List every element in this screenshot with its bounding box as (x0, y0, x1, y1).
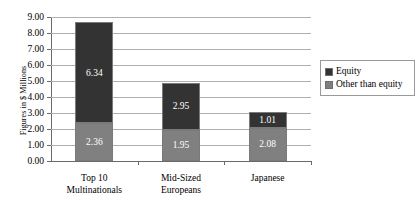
y-axis-tick-label: 2.00 (4, 124, 44, 134)
bar-segment[interactable]: 1.01 (249, 112, 287, 128)
y-axis-tick-mark (47, 129, 51, 130)
bar-value-label: 2.95 (173, 101, 190, 111)
y-axis-tick-label: 0.00 (4, 156, 44, 166)
bar-value-label: 6.34 (86, 68, 103, 78)
chart-legend: EquityOther than equity (320, 60, 415, 96)
x-axis-tick-mark (224, 161, 225, 165)
legend-color-swatch (325, 68, 333, 76)
x-axis-tick-mark (138, 161, 139, 165)
bar-segment[interactable]: 6.34 (75, 22, 113, 123)
bar-group[interactable]: 2.081.01 (249, 17, 287, 161)
y-axis-tick-label: 5.00 (4, 76, 44, 86)
y-axis-tick-label: 1.00 (4, 140, 44, 150)
x-axis-line (51, 161, 312, 162)
y-axis-tick-mark (47, 65, 51, 66)
stacked-bar-chart: Figures in $ Millions 9.008.007.006.005.… (0, 0, 418, 209)
x-axis-category-label: Top 10Multinationals (51, 172, 138, 196)
legend-color-swatch (325, 81, 333, 89)
y-axis-tick-label: 7.00 (4, 44, 44, 54)
y-axis-tick-mark (47, 33, 51, 34)
y-axis-tick-mark (47, 49, 51, 50)
legend-item-label: Other than equity (336, 79, 402, 90)
category-label-line1: Top 10 (51, 172, 138, 184)
y-axis-tick-label: 3.00 (4, 108, 44, 118)
y-axis-tick-label: 9.00 (4, 12, 44, 22)
y-axis-tick-mark (47, 97, 51, 98)
bar-segment[interactable]: 2.95 (162, 83, 200, 130)
legend-item[interactable]: Equity (325, 65, 411, 78)
x-axis-category-label: Japanese (224, 172, 311, 184)
bar-group[interactable]: 1.952.95 (162, 17, 200, 161)
y-axis-tick-label: 8.00 (4, 28, 44, 38)
category-label-line2: Multinationals (51, 184, 138, 196)
bar-segment[interactable]: 2.36 (75, 123, 113, 161)
category-label-line2: Europeans (138, 184, 225, 196)
bar-value-label: 1.95 (173, 140, 190, 150)
legend-item[interactable]: Other than equity (325, 78, 411, 91)
y-axis-tick-label: 6.00 (4, 60, 44, 70)
bar-value-label: 1.01 (259, 115, 276, 125)
y-axis-tick-label: 4.00 (4, 92, 44, 102)
bar-group[interactable]: 2.366.34 (75, 17, 113, 161)
bar-value-label: 2.08 (259, 139, 276, 149)
legend-item-label: Equity (336, 66, 361, 77)
y-axis-tick-mark (47, 145, 51, 146)
bar-segment[interactable]: 1.95 (162, 130, 200, 161)
bar-value-label: 2.36 (86, 137, 103, 147)
y-axis-tick-mark (47, 161, 51, 162)
category-label-line1: Japanese (224, 172, 311, 184)
category-label-line1: Mid-Sized (138, 172, 225, 184)
y-axis-tick-mark (47, 113, 51, 114)
y-axis-tick-mark (47, 17, 51, 18)
x-axis-category-label: Mid-SizedEuropeans (138, 172, 225, 196)
bar-segment[interactable]: 2.08 (249, 128, 287, 161)
y-axis-tick-mark (47, 81, 51, 82)
x-axis-tick-mark (311, 161, 312, 165)
